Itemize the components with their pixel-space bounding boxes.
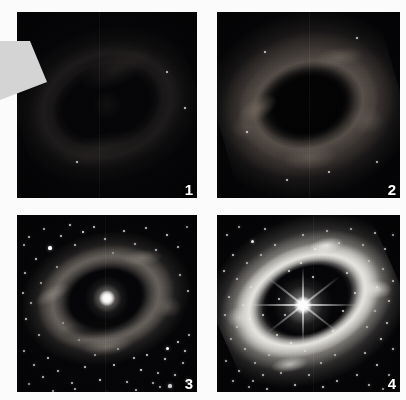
- star-point: [52, 390, 54, 392]
- star-point: [276, 334, 278, 336]
- panel-4[interactable]: 4: [217, 215, 400, 392]
- star-point: [157, 372, 159, 374]
- star-point: [374, 310, 376, 312]
- panel-number-label: 3: [185, 376, 193, 392]
- star-point: [25, 318, 27, 320]
- star-point: [22, 292, 24, 294]
- star-point: [266, 388, 268, 390]
- star-point: [28, 236, 31, 239]
- star-point: [184, 107, 186, 109]
- star-point: [62, 322, 63, 323]
- film-grain: [17, 215, 197, 392]
- scanline: [105, 215, 106, 392]
- star-point: [93, 226, 95, 228]
- nebula-inner-ring: [17, 215, 197, 392]
- panel-1[interactable]: 1: [17, 12, 197, 198]
- star-point: [376, 161, 378, 163]
- star-point: [278, 298, 279, 299]
- star-point: [69, 224, 71, 226]
- star-point: [166, 347, 169, 350]
- star-point: [113, 364, 115, 366]
- star-point: [23, 350, 25, 352]
- star-point: [249, 318, 251, 320]
- star-point: [228, 296, 231, 299]
- star-point: [94, 354, 95, 355]
- star-point: [78, 339, 79, 340]
- star-point: [60, 235, 62, 237]
- star-point: [179, 274, 181, 276]
- star-point: [232, 380, 235, 383]
- star-point: [177, 341, 179, 343]
- star-point: [28, 383, 30, 385]
- nebula-wisp-upper: [17, 12, 197, 198]
- star-point: [252, 380, 254, 382]
- panel-4-sky: [217, 215, 400, 392]
- star-point: [182, 362, 184, 364]
- star-point: [230, 338, 232, 340]
- star-point: [368, 260, 370, 262]
- star-point: [338, 242, 341, 245]
- star-point: [382, 388, 384, 390]
- star-point: [166, 234, 169, 237]
- star-point: [388, 300, 391, 303]
- star-point: [350, 228, 352, 230]
- panel-2[interactable]: 2: [217, 12, 400, 198]
- star-point: [33, 364, 35, 366]
- star-point: [251, 240, 254, 243]
- nebula-dust-lane: [17, 215, 197, 392]
- central-star-core: [17, 215, 197, 392]
- vignette: [17, 215, 197, 392]
- star-point: [133, 357, 135, 359]
- star-point: [356, 37, 358, 39]
- film-grain: [17, 12, 197, 198]
- star-point: [346, 272, 348, 274]
- star-point: [368, 384, 371, 387]
- star-point: [30, 302, 32, 304]
- star-point: [250, 286, 252, 288]
- star-point: [186, 226, 188, 228]
- star-point: [304, 350, 305, 351]
- star-point: [112, 252, 114, 254]
- star-point: [328, 171, 329, 172]
- star-point: [376, 364, 379, 367]
- star-point: [386, 322, 388, 324]
- central-star-glow: [17, 215, 197, 392]
- star-point: [140, 369, 142, 371]
- panel-3[interactable]: 3: [17, 215, 197, 392]
- nebula-inner-ring: [17, 12, 197, 198]
- scanline: [99, 12, 100, 198]
- star-point: [246, 262, 248, 264]
- star-point: [76, 161, 77, 162]
- scanline: [313, 215, 314, 392]
- star-point: [155, 249, 157, 251]
- nebula-clump-lower: [17, 215, 197, 392]
- panel-number-label: 4: [388, 376, 396, 392]
- star-point: [146, 354, 148, 356]
- star-point: [38, 334, 40, 336]
- star-point: [380, 338, 383, 341]
- star-point: [384, 248, 386, 250]
- nebula-clump-upper-right: [17, 215, 197, 392]
- star-point: [236, 278, 238, 280]
- vignette: [17, 12, 197, 198]
- star-point: [290, 342, 291, 343]
- star-point: [56, 266, 58, 268]
- star-point: [274, 244, 276, 246]
- star-point: [382, 268, 384, 270]
- star-point: [236, 326, 238, 328]
- star-point: [35, 258, 37, 260]
- star-point: [82, 231, 85, 234]
- star-point: [320, 362, 322, 364]
- star-point: [57, 370, 59, 372]
- star-point: [135, 389, 137, 391]
- nebula-clump-upper-left: [17, 215, 197, 392]
- star-point: [187, 290, 189, 292]
- star-point: [123, 230, 125, 232]
- star-point: [71, 382, 73, 384]
- star-point: [374, 232, 377, 235]
- star-point: [392, 280, 395, 283]
- nebula-wisp-lower: [17, 12, 197, 198]
- star-point: [392, 234, 394, 236]
- star-point: [238, 226, 240, 228]
- star-point: [294, 384, 296, 386]
